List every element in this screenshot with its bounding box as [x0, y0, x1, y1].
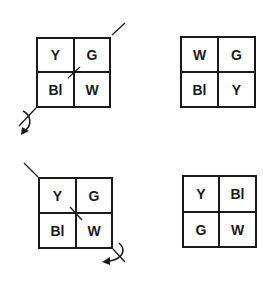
cell-top-right: G: [231, 47, 242, 63]
cell-top-left: Y: [51, 47, 61, 63]
panel-top-left: Y G Bl W: [19, 23, 125, 135]
cell-top-left: Y: [196, 186, 206, 202]
cell-bottom-right: W: [85, 82, 99, 98]
rotation-axis-icon: [19, 108, 36, 126]
cell-top-left: Y: [53, 188, 63, 204]
cell-bottom-right: Y: [232, 82, 242, 98]
cell-bottom-left: Bl: [51, 223, 65, 239]
rotation-axis-icon: [24, 163, 38, 177]
cell-top-left: W: [193, 47, 207, 63]
panel-bottom-left: Y G Bl W: [24, 163, 125, 265]
cell-top-right: G: [89, 188, 100, 204]
panel-top-right: W G Bl Y: [181, 37, 255, 107]
cell-bottom-left: Bl: [193, 82, 207, 98]
panel-bottom-right: Y Bl G W: [183, 176, 256, 247]
rotation-axis-icon: [112, 23, 125, 35]
cell-bottom-left: Bl: [49, 82, 63, 98]
cell-bottom-left: G: [196, 222, 207, 238]
cell-top-right: G: [87, 47, 98, 63]
cell-top-right: Bl: [231, 186, 245, 202]
cell-bottom-right: W: [87, 223, 101, 239]
arrowhead-icon: [102, 257, 110, 265]
rotation-diagram: Y G Bl W W G Bl Y Y G Bl W: [0, 0, 263, 286]
cell-bottom-right: W: [231, 222, 245, 238]
